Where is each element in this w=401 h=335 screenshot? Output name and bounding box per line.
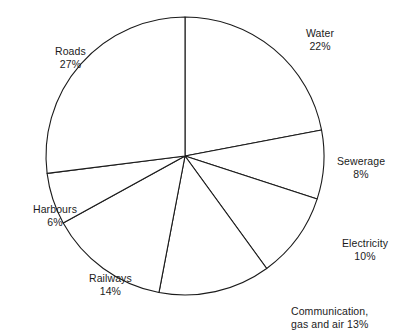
pie-label-railways: Railways14%: [89, 272, 132, 297]
pie-label-value-water: 22%: [306, 40, 334, 53]
pie-label-name-communication-gas-and-air: Communication,: [291, 305, 368, 318]
pie-label-value-communication-gas-and-air: gas and air 13%: [291, 318, 368, 331]
pie-label-value-electricity: 10%: [342, 250, 388, 263]
pie-label-value-sewerage: 8%: [337, 168, 385, 181]
pie-label-value-railways: 14%: [89, 285, 132, 298]
pie-label-harbours: Harbours6%: [33, 203, 77, 228]
pie-label-name-water: Water: [306, 27, 334, 40]
pie-label-water: Water22%: [306, 27, 334, 52]
pie-label-roads: Roads27%: [55, 45, 86, 70]
pie-wedge-group: [46, 17, 324, 295]
pie-slice-roads[interactable]: [46, 17, 185, 173]
pie-label-name-sewerage: Sewerage: [337, 155, 385, 168]
pie-label-communication-gas-and-air: Communication,gas and air 13%: [291, 305, 368, 330]
pie-label-value-roads: 27%: [55, 58, 86, 71]
pie-label-name-electricity: Electricity: [342, 237, 388, 250]
pie-label-value-harbours: 6%: [33, 216, 77, 229]
pie-label-sewerage: Sewerage8%: [337, 155, 385, 180]
pie-label-name-harbours: Harbours: [33, 203, 77, 216]
pie-label-electricity: Electricity10%: [342, 237, 388, 262]
pie-label-name-railways: Railways: [89, 272, 132, 285]
pie-chart-page: Water22%Sewerage8%Electricity10%Communic…: [0, 0, 401, 335]
pie-label-name-roads: Roads: [55, 45, 86, 58]
